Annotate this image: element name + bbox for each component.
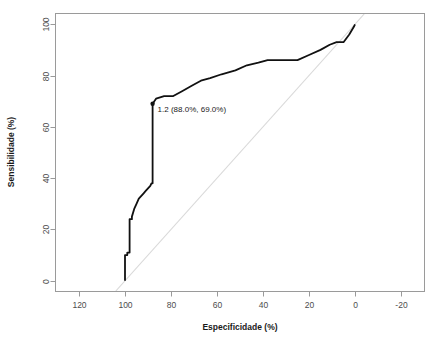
x-tick-label: 100 [118,300,132,310]
optimal-threshold-point [150,102,154,106]
y-tick-label: 20 [41,225,51,235]
x-tick-label: -20 [395,300,408,310]
roc-plot-container: 120100806040200-20 020406080100 1.2 (88.… [0,0,448,344]
x-tick-label: 60 [213,300,223,310]
y-tick-label: 100 [41,17,51,31]
x-axis-ticks [80,292,402,297]
y-tick-label: 40 [41,174,51,184]
y-tick-label: 0 [41,279,51,284]
x-tick-label: 20 [305,300,315,310]
y-axis-tick-labels: 020406080100 [41,17,51,284]
y-axis-ticks [51,25,56,282]
x-axis-title: Especificidade (%) [202,322,277,332]
x-tick-label: 40 [259,300,269,310]
y-tick-label: 80 [41,72,51,82]
y-axis-title: Sensibilidade (%) [6,117,16,188]
x-axis-tick-labels: 120100806040200-20 [72,300,408,310]
optimal-threshold-label: 1.2 (88.0%, 69.0%) [158,105,227,114]
x-tick-label: 0 [353,300,358,310]
x-tick-label: 80 [167,300,177,310]
roc-chart: 120100806040200-20 020406080100 1.2 (88.… [0,0,448,344]
y-tick-label: 60 [41,123,51,133]
x-tick-label: 120 [72,300,86,310]
